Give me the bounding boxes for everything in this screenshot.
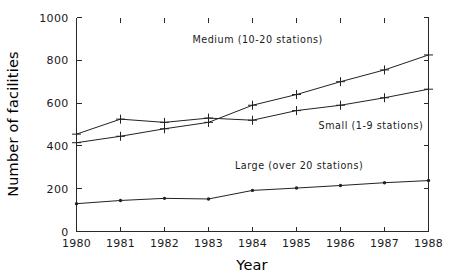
y-tick-label: 200 — [47, 183, 69, 196]
x-axis-tick-labels: 198019811982198319841985198619871988 — [62, 237, 443, 250]
plus-marker-icon — [336, 77, 345, 86]
plus-marker-icon — [248, 116, 257, 125]
y-axis-title: Number of facilities — [5, 51, 21, 197]
dot-marker-icon — [119, 199, 122, 202]
x-tick-label: 1984 — [238, 237, 267, 250]
plus-marker-icon — [292, 90, 301, 99]
plus-marker-icon — [424, 85, 433, 94]
plus-marker-icon — [292, 106, 301, 115]
data-series — [75, 179, 430, 206]
dot-marker-icon — [163, 197, 166, 200]
series-annotations: Medium (10-20 stations)Small (1-9 statio… — [192, 34, 423, 171]
series-line — [77, 181, 429, 204]
plus-marker-icon — [424, 50, 433, 59]
x-axis-title: Year — [235, 257, 268, 273]
x-tick-label: 1985 — [282, 237, 311, 250]
x-tick-label: 1981 — [106, 237, 135, 250]
y-tick-label: 800 — [47, 54, 69, 67]
y-tick-label: 600 — [47, 97, 69, 110]
dot-marker-icon — [295, 186, 298, 189]
plus-marker-icon — [336, 101, 345, 110]
series-annotation-label: Large (over 20 stations) — [235, 160, 363, 171]
y-tick-label: 400 — [47, 140, 69, 153]
x-tick-label: 1988 — [414, 237, 443, 250]
plus-marker-icon — [116, 115, 125, 124]
dot-marker-icon — [383, 181, 386, 184]
y-axis-tick-labels: 02004006008001000 — [39, 12, 68, 239]
dot-marker-icon — [427, 179, 430, 182]
plus-marker-icon — [72, 130, 81, 139]
plus-marker-icon — [160, 118, 169, 127]
series-annotation-label: Medium (10-20 stations) — [192, 34, 323, 45]
y-tick-label: 1000 — [39, 12, 68, 25]
x-tick-label: 1983 — [194, 237, 223, 250]
x-tick-label: 1982 — [150, 237, 179, 250]
series-annotation-label: Small (1-9 stations) — [319, 120, 424, 131]
plus-marker-icon — [116, 132, 125, 141]
dot-marker-icon — [75, 202, 78, 205]
line-chart: 02004006008001000 1980198119821983198419… — [0, 0, 450, 277]
x-tick-label: 1986 — [326, 237, 355, 250]
dot-marker-icon — [251, 189, 254, 192]
dot-marker-icon — [207, 197, 210, 200]
x-tick-label: 1987 — [370, 237, 399, 250]
chart-figure: 02004006008001000 1980198119821983198419… — [0, 0, 450, 277]
dot-marker-icon — [339, 184, 342, 187]
x-tick-label: 1980 — [62, 237, 91, 250]
plus-marker-icon — [380, 65, 389, 74]
plus-marker-icon — [248, 101, 257, 110]
plus-marker-icon — [380, 93, 389, 102]
